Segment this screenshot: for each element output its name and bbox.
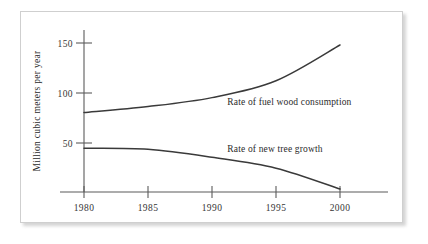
x-tick-label-1980: 1980 [74, 203, 95, 213]
series-label-fuel-wood-consumption: Rate of fuel wood consumption [227, 97, 351, 107]
y-tick-label-100: 100 [58, 89, 73, 99]
series-label-new-tree-growth: Rate of new tree growth [227, 144, 322, 154]
x-tick-label-2000: 2000 [330, 203, 351, 213]
x-tick-label-1985: 1985 [138, 203, 159, 213]
figure-root: 150 100 50 1980 1985 1990 1995 2000 Mill… [0, 0, 428, 244]
series-line-new-tree-growth [84, 148, 340, 189]
y-tick-label-150: 150 [58, 39, 73, 49]
line-chart: 150 100 50 1980 1985 1990 1995 2000 Mill… [0, 0, 428, 244]
y-tick-label-50: 50 [63, 139, 73, 149]
y-axis-title: Million cubic meters per year [32, 50, 42, 172]
x-tick-label-1995: 1995 [266, 203, 287, 213]
x-tick-label-1990: 1990 [202, 203, 223, 213]
